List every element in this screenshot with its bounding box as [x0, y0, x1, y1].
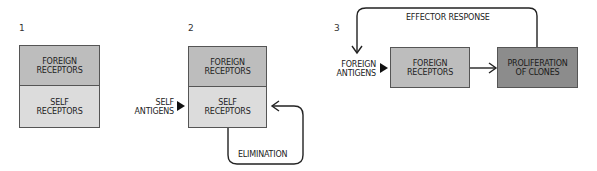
panel-2-foreign-receptors-box: FOREIGN RECEPTORS	[188, 46, 267, 87]
self-antigens-triangle-icon	[177, 101, 185, 111]
foreign-antigens-triangle-icon	[380, 63, 388, 73]
panel-3-foreign-receptors-box: FOREIGN RECEPTORS	[390, 47, 470, 88]
panel-2-number: 2	[188, 23, 194, 33]
panel-1-foreign-receptors-label: FOREIGN RECEPTORS	[32, 57, 88, 75]
panel-1-self-receptors-box: SELF RECEPTORS	[19, 85, 100, 128]
panel-1-number: 1	[19, 23, 25, 33]
effector-response-label: EFFECTOR RESPONSE	[406, 13, 490, 22]
foreign-antigens-label: FOREIGN ANTIGENS	[330, 60, 376, 78]
panel-3-foreign-receptors-label: FOREIGN RECEPTORS	[402, 59, 458, 77]
elimination-label: ELIMINATION	[238, 150, 287, 159]
panel-1-self-receptors-label: SELF RECEPTORS	[32, 98, 88, 116]
proliferation-of-clones-label: PROLIFERATION OF CLONES	[503, 59, 573, 77]
panel-3-number: 3	[334, 23, 340, 33]
panel-2-self-receptors-label: SELF RECEPTORS	[200, 98, 256, 116]
self-antigens-label: SELF ANTIGENS	[130, 98, 174, 116]
panel-2-self-receptors-box: SELF RECEPTORS	[188, 86, 267, 128]
proliferation-of-clones-box: PROLIFERATION OF CLONES	[497, 47, 578, 88]
panel-2-foreign-receptors-label: FOREIGN RECEPTORS	[200, 58, 256, 76]
panel-1-foreign-receptors-box: FOREIGN RECEPTORS	[19, 45, 100, 86]
